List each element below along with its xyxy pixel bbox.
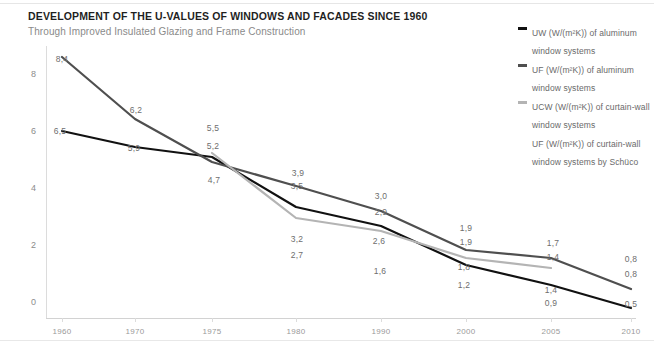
legend-label: UF (W/(m²K)) of curtain-wall window syst…	[532, 139, 641, 167]
legend-item-3[interactable]: UF (W/(m²K)) of curtain-wall window syst…	[518, 133, 650, 169]
chart-legend: UW (W/(m²K)) of aluminum window systemsU…	[518, 22, 650, 170]
data-point-label: 3,0	[375, 191, 387, 201]
data-point-label: 1,8	[458, 262, 470, 272]
legend-item-0[interactable]: UW (W/(m²K)) of aluminum window systems	[518, 22, 650, 58]
data-point-label: 3,9	[292, 168, 304, 178]
data-point-label: 5,2	[207, 141, 219, 151]
legend-label: UF (W/(m²K)) of aluminum window systems	[532, 65, 634, 93]
legend-item-1[interactable]: UF (W/(m²K)) of aluminum window systems	[518, 59, 650, 95]
data-point-label: 5,5	[207, 123, 219, 133]
data-point-label: 4,7	[208, 175, 220, 185]
data-point-label: 8,4	[56, 54, 68, 64]
data-point-label: 5,9	[128, 143, 140, 153]
data-point-label: 1,6	[374, 266, 386, 276]
legend-label: UW (W/(m²K)) of aluminum window systems	[532, 28, 637, 56]
data-point-label: 2,7	[291, 250, 303, 260]
legend-swatch-icon	[518, 27, 527, 30]
data-point-label: 3,5	[291, 181, 303, 191]
data-point-label: 1,2	[458, 280, 470, 290]
data-point-label: 0,5	[625, 299, 637, 309]
data-point-label: 0,8	[625, 254, 637, 264]
data-point-label: 2,6	[373, 236, 385, 246]
legend-swatch-icon	[518, 64, 527, 67]
legend-swatch-icon	[518, 101, 527, 104]
legend-label: UCW (W/(m²K)) of curtain-wall window sys…	[532, 102, 650, 130]
data-point-label: 0,9	[545, 298, 557, 308]
data-point-label: 1,4	[545, 285, 557, 295]
data-point-label: 1,9	[460, 237, 472, 247]
data-point-label: 6,2	[130, 105, 142, 115]
data-point-label: 3,2	[291, 234, 303, 244]
data-point-label: 0,8	[625, 269, 637, 279]
data-point-label: 1,7	[547, 238, 559, 248]
data-point-label: 2,9	[375, 207, 387, 217]
data-point-label: 1,4	[547, 252, 559, 262]
chart-page: DEVELOPMENT OF THE U-VALUES OF WINDOWS A…	[0, 0, 654, 350]
data-point-label: 6,5	[54, 126, 66, 136]
legend-item-2[interactable]: UCW (W/(m²K)) of curtain-wall window sys…	[518, 96, 650, 132]
data-point-label: 1,9	[460, 223, 472, 233]
